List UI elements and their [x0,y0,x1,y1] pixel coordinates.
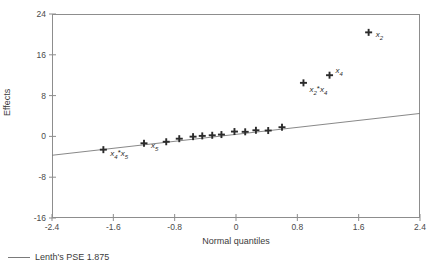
legend-line-swatch [8,257,30,258]
x-tick-label: -2.4 [45,223,60,232]
x-tick-label: 0 [234,223,239,232]
point-label-x5: x5 [151,142,158,152]
y-tick-label: 24 [24,10,46,19]
x-tick-label: -0.8 [167,223,182,232]
y-tick-label: -16 [24,214,46,223]
plot-area [52,14,420,218]
normal-quantile-effects-plot: Effects Normal quantiles 24 16 8 0 -8 -1… [0,0,434,278]
y-axis-title: Effects [2,89,12,116]
x-tick-label: 2.4 [414,223,426,232]
legend-label-lenth-pse: Lenth's PSE 1.875 [35,252,109,262]
x-tick-label: -1.6 [106,223,121,232]
y-tick-label: 8 [24,91,46,100]
y-tick-label: 16 [24,51,46,60]
legend: Lenth's PSE 1.875 [8,252,109,262]
x-tick-label: 0.8 [291,223,303,232]
y-tick-label: -8 [24,173,46,182]
x-axis-title: Normal quantiles [202,236,270,246]
y-tick-label: 0 [24,132,46,141]
x-tick-label: 1.6 [353,223,365,232]
point-label-x4: x4 [336,67,343,77]
point-label-x4-x5: x4*x5 [110,149,128,160]
point-label-x2-x4: x2*x4 [309,85,327,96]
point-label-x2: x2 [376,31,383,41]
